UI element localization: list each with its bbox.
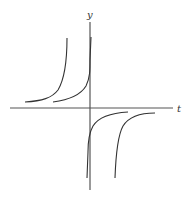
chart-canvas: y t <box>0 0 187 197</box>
curve-1 <box>25 38 67 102</box>
curve-2 <box>53 37 91 102</box>
curve-3 <box>87 112 128 178</box>
curve-4 <box>115 113 155 178</box>
t-axis-label: t <box>177 103 182 114</box>
y-axis-label: y <box>86 9 93 20</box>
